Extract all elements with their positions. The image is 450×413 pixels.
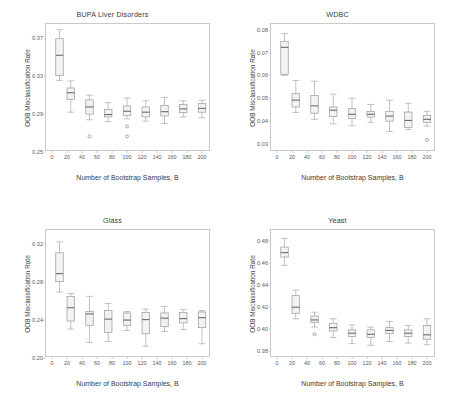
x-axis-tick-mark xyxy=(187,356,188,359)
panel-title: BUPA Liver Disorders xyxy=(0,10,225,19)
boxplot-box xyxy=(367,327,375,345)
boxplot-box xyxy=(198,311,206,344)
y-axis-tick-label: 0.25 xyxy=(32,149,43,155)
x-axis-tick-mark xyxy=(352,150,353,153)
boxplot-box xyxy=(405,325,413,343)
x-axis-tick-label: 120 xyxy=(363,360,372,366)
boxplot-box xyxy=(423,111,431,141)
x-axis-tick-mark xyxy=(157,356,158,359)
x-axis-tick-mark xyxy=(52,150,53,153)
x-axis-tick-label: 200 xyxy=(198,360,207,366)
x-axis-tick-mark xyxy=(52,356,53,359)
boxplot-box xyxy=(142,309,150,346)
y-axis-tick-mark xyxy=(269,307,272,308)
boxplot-figure: BUPA Liver Disorders OOB Misclassificati… xyxy=(0,0,450,413)
x-axis-tick-mark xyxy=(322,356,323,359)
y-axis-tick-mark xyxy=(44,114,47,115)
y-axis-tick-label: 0.29 xyxy=(32,111,43,117)
y-axis-tick-mark xyxy=(44,320,47,321)
x-axis-tick-label: 180 xyxy=(408,360,417,366)
x-axis-tick-mark xyxy=(97,356,98,359)
x-axis-tick-mark xyxy=(307,356,308,359)
panel-wdbc: WDBC OOB Misclassification Rate 0.030.04… xyxy=(225,0,450,206)
x-axis-tick-label: 100 xyxy=(123,154,132,160)
x-axis-tick-mark xyxy=(82,150,83,153)
x-axis-tick-label: 100 xyxy=(123,360,132,366)
panel-title: WDBC xyxy=(225,10,450,19)
x-axis-tick-mark xyxy=(427,356,428,359)
x-axis-tick-mark xyxy=(277,150,278,153)
x-axis-tick-label: 160 xyxy=(168,360,177,366)
x-axis-tick-mark xyxy=(202,150,203,153)
boxplot-box xyxy=(348,98,356,125)
y-axis-tick-mark xyxy=(44,244,47,245)
x-axis-label: Number of Bootstrap Samples, B xyxy=(270,380,435,387)
x-axis-tick-mark xyxy=(187,150,188,153)
x-axis-tick-mark xyxy=(127,356,128,359)
plot-area: OOB Misclassification Rate 0.380.400.420… xyxy=(270,229,435,357)
boxplot-box xyxy=(281,238,289,265)
y-axis-tick-mark xyxy=(269,121,272,122)
x-axis-tick-mark xyxy=(172,356,173,359)
x-axis-tick-mark xyxy=(337,356,338,359)
x-axis-tick-label: 0 xyxy=(51,154,54,160)
boxplot-box xyxy=(67,81,75,112)
boxplot-box xyxy=(123,312,131,331)
y-axis-tick-label: 0.06 xyxy=(257,72,268,78)
x-axis-tick-label: 120 xyxy=(363,154,372,160)
y-axis-tick-label: 0.24 xyxy=(32,317,43,323)
boxplot-box xyxy=(86,296,94,342)
outlier-point xyxy=(88,135,91,138)
x-axis-tick-label: 40 xyxy=(304,154,310,160)
boxplot-box xyxy=(348,325,356,344)
x-axis-tick-mark xyxy=(322,150,323,153)
x-axis-tick-mark xyxy=(67,356,68,359)
boxplot-box xyxy=(281,34,289,76)
boxplot-box xyxy=(198,100,206,118)
boxplot-series xyxy=(46,230,209,356)
boxplot-series xyxy=(271,230,434,356)
x-axis-tick-label: 100 xyxy=(348,360,357,366)
x-axis-tick-label: 20 xyxy=(64,360,70,366)
x-axis-label: Number of Bootstrap Samples, B xyxy=(45,380,210,387)
panel-title: Glass xyxy=(0,216,225,225)
x-axis-tick-label: 200 xyxy=(423,154,432,160)
x-axis-tick-label: 80 xyxy=(334,360,340,366)
plot-area: OOB Misclassification Rate 0.250.290.330… xyxy=(45,23,210,151)
x-axis-tick-mark xyxy=(142,150,143,153)
y-axis-tick-mark xyxy=(269,75,272,76)
y-axis-tick-mark xyxy=(44,358,47,359)
boxplot-box xyxy=(180,101,188,117)
y-axis-label: OOB Misclassification Rate xyxy=(249,230,261,358)
x-axis-tick-mark xyxy=(382,356,383,359)
y-axis-tick-label: 0.07 xyxy=(257,50,268,56)
x-axis-tick-mark xyxy=(292,150,293,153)
boxplot-box xyxy=(86,95,94,138)
y-axis-tick-label: 0.44 xyxy=(257,282,268,288)
x-axis-tick-label: 40 xyxy=(79,360,85,366)
boxplot-box xyxy=(56,242,64,292)
y-axis-label: OOB Misclassification Rate xyxy=(24,24,36,152)
boxplot-box xyxy=(105,103,113,122)
x-axis-tick-label: 160 xyxy=(393,360,402,366)
x-axis-tick-mark xyxy=(412,150,413,153)
x-axis-tick-mark xyxy=(127,150,128,153)
y-axis-tick-label: 0.20 xyxy=(32,355,43,361)
x-axis-tick-label: 40 xyxy=(304,360,310,366)
boxplot-box xyxy=(142,101,150,121)
y-axis-tick-mark xyxy=(269,329,272,330)
boxplot-box xyxy=(367,104,375,122)
x-axis-tick-mark xyxy=(277,356,278,359)
x-axis-tick-mark xyxy=(112,356,113,359)
x-axis-tick-mark xyxy=(82,356,83,359)
x-axis-tick-label: 40 xyxy=(79,154,85,160)
x-axis-tick-mark xyxy=(142,356,143,359)
x-axis-tick-label: 160 xyxy=(168,154,177,160)
x-axis-tick-label: 0 xyxy=(51,360,54,366)
boxplot-box xyxy=(405,103,413,129)
x-axis-tick-label: 60 xyxy=(319,360,325,366)
outlier-point xyxy=(126,125,129,128)
y-axis-tick-label: 0.28 xyxy=(32,279,43,285)
y-axis-tick-mark xyxy=(269,29,272,30)
x-axis-tick-label: 20 xyxy=(289,360,295,366)
